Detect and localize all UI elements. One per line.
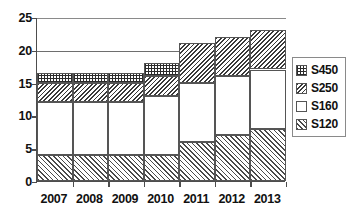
legend-label: S160: [311, 100, 338, 112]
bar-segment-s160[interactable]: [37, 102, 73, 154]
legend-label: S250: [311, 82, 338, 94]
stacked-bar[interactable]: [250, 18, 286, 181]
y-axis-tick: [32, 116, 37, 117]
x-axis-tick: [73, 182, 74, 187]
y-axis-tick: [32, 51, 37, 52]
bar-segment-s250[interactable]: [73, 83, 109, 103]
y-axis-labels: 0510152025: [0, 18, 32, 182]
bar-group[interactable]: [73, 18, 109, 181]
x-axis-tick-label: 2011: [178, 192, 214, 212]
y-axis-tick-label: 10: [6, 110, 32, 123]
bar-segment-s250[interactable]: [108, 83, 144, 103]
stacked-bar[interactable]: [179, 18, 215, 181]
y-axis-tick-label: 0: [6, 176, 32, 189]
stacked-bar[interactable]: [144, 18, 180, 181]
bar-group[interactable]: [108, 18, 144, 181]
y-axis-tick: [32, 18, 37, 19]
bar-segment-s120[interactable]: [37, 155, 73, 181]
y-axis-tick-label: 5: [6, 143, 32, 156]
x-axis-tick-label: 2013: [249, 192, 285, 212]
legend-label: S120: [311, 118, 338, 130]
stacked-bar-chart: 0510152025 2007200820092010201120122013 …: [0, 0, 349, 223]
x-axis-tick: [144, 182, 145, 187]
bar-segment-s120[interactable]: [179, 142, 215, 181]
legend-swatch-icon: [296, 119, 307, 130]
bar-group[interactable]: [37, 18, 73, 181]
bar-segment-s250[interactable]: [179, 43, 215, 82]
y-axis-tick: [32, 149, 37, 150]
bar-segment-s250[interactable]: [215, 37, 251, 76]
bar-segment-s160[interactable]: [250, 70, 286, 129]
y-axis-tick: [32, 84, 37, 85]
bar-segment-s120[interactable]: [250, 129, 286, 181]
legend-swatch-icon: [296, 101, 307, 112]
legend-item-s160[interactable]: S160: [296, 97, 342, 115]
y-axis-tick-label: 15: [6, 78, 32, 91]
bar-group[interactable]: [215, 18, 251, 181]
bar-group[interactable]: [179, 18, 215, 181]
bar-segment-s250[interactable]: [37, 83, 73, 103]
legend-swatch-icon: [296, 83, 307, 94]
y-axis-tick: [32, 182, 37, 183]
x-axis-tick-label: 2007: [36, 192, 72, 212]
legend-item-s120[interactable]: S120: [296, 115, 342, 133]
bar-segment-s160[interactable]: [73, 102, 109, 154]
stacked-bar[interactable]: [108, 18, 144, 181]
bar-segment-s160[interactable]: [144, 96, 180, 155]
x-axis-tick-label: 2012: [214, 192, 250, 212]
bar-segment-s120[interactable]: [73, 155, 109, 181]
plot-area: [36, 18, 285, 182]
x-axis-labels: 2007200820092010201120122013: [36, 192, 285, 212]
bar-segment-s250[interactable]: [144, 76, 180, 96]
bar-group[interactable]: [144, 18, 180, 181]
legend-item-s250[interactable]: S250: [296, 79, 342, 97]
bar-segment-s160[interactable]: [108, 102, 144, 154]
x-axis-tick: [179, 182, 180, 187]
legend-label: S450: [311, 64, 338, 76]
bar-segment-s450[interactable]: [108, 73, 144, 83]
stacked-bar[interactable]: [215, 18, 251, 181]
bar-segment-s120[interactable]: [215, 135, 251, 181]
stacked-bar[interactable]: [37, 18, 73, 181]
x-axis-tick: [250, 182, 251, 187]
x-axis-tick: [108, 182, 109, 187]
plot-inner: [37, 18, 285, 181]
x-axis-tick-label: 2009: [107, 192, 143, 212]
x-axis-tick: [215, 182, 216, 187]
legend-item-s450[interactable]: S450: [296, 61, 342, 79]
bar-segment-s160[interactable]: [179, 83, 215, 142]
bar-segment-s450[interactable]: [73, 73, 109, 83]
y-axis-tick-label: 25: [6, 12, 32, 25]
bar-segment-s120[interactable]: [108, 155, 144, 181]
y-axis-tick-label: 20: [6, 45, 32, 58]
x-axis-tick-label: 2008: [72, 192, 108, 212]
legend-swatch-icon: [296, 65, 307, 76]
x-axis-tick-label: 2010: [143, 192, 179, 212]
bar-segment-s250[interactable]: [250, 30, 286, 69]
bar-segment-s450[interactable]: [37, 73, 73, 83]
bar-segment-s120[interactable]: [144, 155, 180, 181]
x-axis-tick: [286, 182, 287, 187]
bar-segment-s160[interactable]: [215, 76, 251, 135]
stacked-bar[interactable]: [73, 18, 109, 181]
chart-legend: S450S250S160S120: [292, 57, 346, 137]
bar-group[interactable]: [250, 18, 286, 181]
bar-segment-s450[interactable]: [144, 63, 180, 76]
